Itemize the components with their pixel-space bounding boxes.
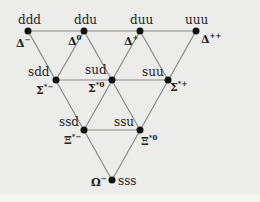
quark-label-sss: sss	[118, 175, 136, 187]
quark-label-ddu: ddu	[74, 14, 97, 26]
particle-xi-star-minus: Ξ*−	[64, 133, 81, 146]
particle-xi-star-zero: Ξ*0	[141, 134, 157, 147]
node-dot-sud	[109, 77, 116, 84]
particle-delta-minus: Δ−	[16, 36, 30, 49]
quark-label-sdd: sdd	[28, 66, 50, 78]
quark-label-ssu: ssu	[114, 116, 134, 128]
particle-sigma-star-minus: Σ*−	[36, 83, 53, 96]
quark-label-suu: suu	[142, 66, 164, 78]
particle-delta-plus: Δ+	[124, 34, 138, 47]
node-dot-ssu	[137, 127, 144, 134]
particle-delta-zero: Δ0	[68, 34, 81, 47]
particle-sigma-star-zero: Σ*0	[88, 81, 104, 94]
node-dot-sdd	[53, 77, 60, 84]
particle-sigma-star-plus: Σ*+	[170, 80, 187, 93]
node-dot-sss	[109, 177, 116, 184]
quark-label-uuu: uuu	[185, 14, 208, 26]
particle-omega-minus: Ω−	[91, 175, 107, 188]
node-dot-uuu	[193, 28, 200, 35]
quark-label-sud: sud	[85, 64, 107, 76]
quark-label-duu: duu	[130, 14, 153, 26]
node-dot-ssd	[81, 127, 88, 134]
node-dot-ddu	[81, 28, 88, 35]
quark-label-ddd: ddd	[18, 14, 41, 26]
quark-label-ssd: ssd	[59, 116, 79, 128]
node-dot-ddd	[25, 28, 32, 35]
particle-delta-plusplus: Δ++	[201, 32, 221, 45]
